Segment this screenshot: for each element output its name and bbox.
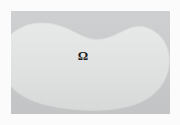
figure-panel: Ω [11,11,170,114]
figure-root: Ω [0,0,180,125]
omega-domain-region [11,11,170,114]
domain-boundary-path [11,23,169,110]
